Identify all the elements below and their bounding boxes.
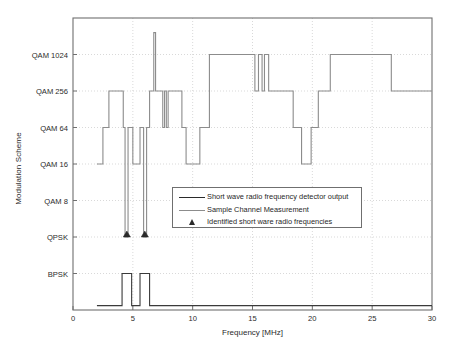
legend-item-identified: Identified short ware radio frequencies [173,215,361,228]
chart-legend: Short wave radio frequency detector outp… [172,187,362,228]
identified-frequency-marker [123,231,130,237]
legend-item-detector: Short wave radio frequency detector outp… [173,190,361,203]
legend-line-icon-detector [177,191,207,203]
chart-plot-area [0,0,451,353]
legend-label-identified: Identified short ware radio frequencies [207,218,332,225]
axis-frame [73,18,432,310]
legend-triangle-icon-identified [177,216,207,228]
identified-frequency-marker [141,231,148,237]
legend-label-detector: Short wave radio frequency detector outp… [207,193,348,200]
figure-container: Modulation Scheme Frequency [MHz] BPSKQP… [0,0,451,353]
series-line-1 [97,274,432,306]
legend-line-icon-measurement [177,204,207,216]
legend-label-measurement: Sample Channel Measurement [207,206,309,213]
